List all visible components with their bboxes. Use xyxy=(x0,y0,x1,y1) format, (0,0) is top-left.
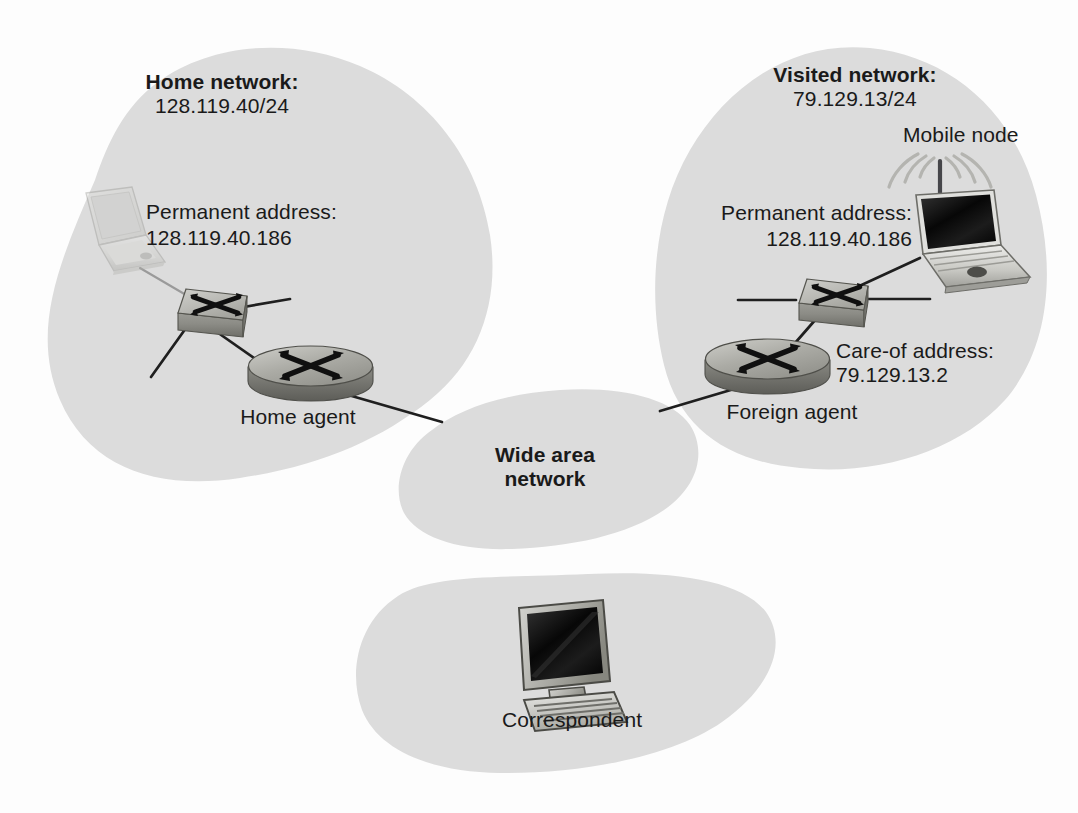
visited-permanent-address-label: Permanent address: xyxy=(717,201,912,226)
network-diagram-svg xyxy=(0,0,1078,813)
home-network-title: Home network: xyxy=(146,70,299,95)
care-of-address-label: Care-of address: xyxy=(836,339,994,364)
switch-icon xyxy=(178,289,247,337)
router-icon xyxy=(705,339,830,394)
diagram-canvas: Home network: 128.119.40/24 Permanent ad… xyxy=(0,0,1078,813)
visited-network-subnet: 79.129.13/24 xyxy=(793,87,917,112)
wide-area-network-title-line1: Wide area xyxy=(495,443,595,468)
correspondent-label: Correspondent xyxy=(502,708,642,733)
visited-network-title: Visited network: xyxy=(773,63,936,88)
home-permanent-address-label: Permanent address: xyxy=(146,200,337,225)
switch-icon xyxy=(799,279,868,327)
router-icon xyxy=(248,346,373,402)
visited-permanent-address-value: 128.119.40.186 xyxy=(717,227,912,252)
foreign-agent-label: Foreign agent xyxy=(727,400,858,425)
care-of-address-value: 79.129.13.2 xyxy=(836,363,948,388)
mobile-node-label: Mobile node xyxy=(903,123,1019,148)
wide-area-network-title-line2: network xyxy=(504,467,585,492)
home-agent-label: Home agent xyxy=(240,405,355,430)
home-network-subnet: 128.119.40/24 xyxy=(155,94,289,119)
home-permanent-address-value: 128.119.40.186 xyxy=(146,226,292,251)
